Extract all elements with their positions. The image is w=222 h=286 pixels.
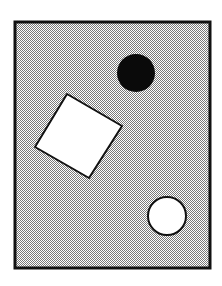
black-circle	[117, 54, 155, 92]
diagram-scene	[0, 0, 222, 286]
white-circle	[148, 197, 186, 235]
